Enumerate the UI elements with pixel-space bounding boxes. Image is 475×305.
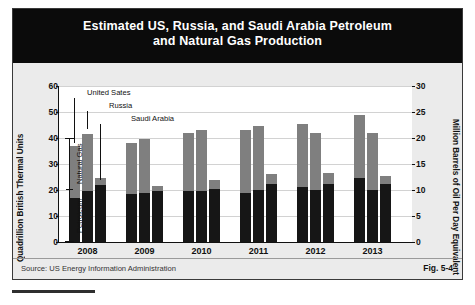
chart-figure: Estimated US, Russia, and Saudi Arabia P…: [12, 8, 463, 280]
y-axis-right-tick-label: 5: [416, 211, 442, 221]
y-axis-right-tick-label: 15: [416, 159, 442, 169]
chart-title-line-1: Estimated US, Russia, and Saudi Arabia P…: [13, 19, 462, 34]
bar: [183, 133, 194, 242]
bar-segment-petroleum: [95, 185, 106, 242]
chart-title: Estimated US, Russia, and Saudi Arabia P…: [13, 9, 462, 49]
plot-area: 0010520103015402050256030200820092010201…: [58, 86, 412, 243]
bar: [354, 115, 365, 242]
y-axis-left-tick-label: 10: [32, 211, 58, 221]
figure-page: Estimated US, Russia, and Saudi Arabia P…: [0, 0, 475, 305]
bracket-divider: [66, 189, 73, 190]
bar-group: [297, 86, 334, 242]
y-axis-left-tick-label: 30: [32, 159, 58, 169]
bar-segment-natural-gas: [196, 130, 207, 191]
bar: [240, 130, 251, 242]
x-axis-tick-label: 2012: [286, 246, 346, 256]
callout-leader-line: [74, 98, 75, 143]
bar-group: [183, 86, 220, 242]
y-axis-left-tick-label: 0: [32, 237, 58, 247]
series-callout-label: United Sates: [87, 88, 130, 97]
bar-segment-natural-gas: [253, 126, 264, 190]
y-axis-left-tick-label: 60: [32, 81, 58, 91]
bar-group: [354, 86, 391, 242]
bar-segment-natural-gas: [367, 133, 378, 190]
x-axis-tick-label: 2009: [115, 246, 175, 256]
y-tick-mark-right: [412, 216, 415, 217]
bracket-label-petroleum: Petroleum: [75, 190, 84, 242]
bar: [266, 174, 277, 242]
bar: [95, 178, 106, 242]
bar-segment-petroleum: [139, 193, 150, 242]
series-callout-label: Saudi Arabia: [131, 114, 174, 123]
y-axis-right-tick-label: 0: [416, 237, 442, 247]
bar: [367, 133, 378, 242]
bar-group: [240, 86, 277, 242]
bracket-line: [69, 138, 70, 242]
bar-segment-petroleum: [152, 191, 163, 242]
bracket-cap-top: [65, 138, 74, 139]
bar-segment-petroleum: [380, 184, 391, 243]
bar: [126, 143, 137, 242]
y-tick-mark-right: [412, 164, 415, 165]
x-axis-tick-label: 2008: [58, 246, 118, 256]
bar-segment-petroleum: [126, 194, 137, 242]
y-tick-mark-right: [412, 112, 415, 113]
bar-segment-petroleum: [323, 184, 334, 243]
title-band: Estimated US, Russia, and Saudi Arabia P…: [13, 9, 462, 63]
bar-segment-petroleum: [253, 190, 264, 242]
bar-segment-natural-gas: [380, 176, 391, 184]
bar-segment-natural-gas: [266, 174, 277, 183]
y-axis-right-tick-label: 30: [416, 81, 442, 91]
y-axis-right-tick-label: 20: [416, 133, 442, 143]
bar-segment-petroleum: [354, 178, 365, 242]
bar-segment-natural-gas: [209, 180, 220, 189]
x-axis-tick-label: 2010: [172, 246, 232, 256]
y-tick-mark-right: [412, 86, 415, 87]
bar: [209, 180, 220, 242]
y-axis-right-title: Million Barrels of Oil Per Day Equivalen…: [446, 115, 460, 280]
bar-segment-natural-gas: [183, 133, 194, 192]
bar-segment-natural-gas: [240, 130, 251, 192]
y-tick-mark-right: [412, 138, 415, 139]
bar-segment-petroleum: [297, 187, 308, 242]
x-axis-tick-label: 2013: [343, 246, 403, 256]
bracket-label-natural-gas: Natural Gas: [75, 138, 84, 190]
y-axis-left-title: Quadrillion British Thermal Units: [16, 123, 30, 273]
bar: [323, 173, 334, 242]
y-axis-left-tick-label: 40: [32, 133, 58, 143]
chart-title-line-2: and Natural Gas Production: [13, 34, 462, 49]
bar-segment-petroleum: [310, 190, 321, 242]
bar-segment-petroleum: [209, 189, 220, 242]
figure-footer: Source: US Energy Information Administra…: [13, 258, 462, 279]
source-note: Source: US Energy Information Administra…: [21, 264, 176, 273]
stack-bracket: Natural GasPetroleum: [65, 138, 74, 242]
bar-segment-petroleum: [240, 193, 251, 242]
y-axis-right-tick-label: 25: [416, 107, 442, 117]
callout-leader-line: [87, 111, 88, 129]
bar: [152, 186, 163, 242]
callout-leader-line: [100, 124, 101, 180]
page-artifact-line: [12, 290, 95, 293]
y-axis-right-tick-label: 10: [416, 185, 442, 195]
bar-segment-natural-gas: [126, 143, 137, 194]
bar: [196, 130, 207, 242]
figure-number: Fig. 5-4: [423, 263, 453, 273]
bar: [380, 176, 391, 242]
bar: [139, 139, 150, 242]
bar: [310, 133, 321, 242]
bar: [253, 126, 264, 242]
bar-segment-petroleum: [196, 191, 207, 242]
bar-segment-petroleum: [266, 184, 277, 243]
x-axis-tick-label: 2011: [229, 246, 289, 256]
y-tick-mark-right: [412, 242, 415, 243]
plot-region: Quadrillion British Thermal Units Millio…: [13, 63, 462, 281]
bracket-cap-bottom: [65, 241, 74, 242]
bar-segment-natural-gas: [139, 139, 150, 192]
bar-segment-natural-gas: [297, 124, 308, 188]
bar-segment-petroleum: [367, 190, 378, 242]
bar-segment-natural-gas: [354, 115, 365, 179]
bar-segment-natural-gas: [323, 173, 334, 183]
bar-segment-petroleum: [183, 191, 194, 242]
series-callout-label: Russia: [109, 101, 132, 110]
y-axis-left-tick-label: 20: [32, 185, 58, 195]
